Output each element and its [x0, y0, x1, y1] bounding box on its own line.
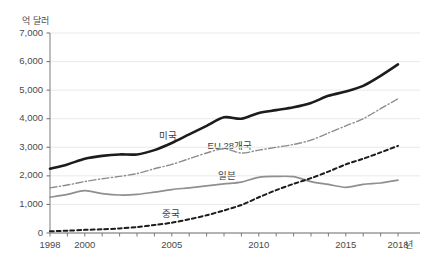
series-line	[50, 146, 398, 231]
line-chart: 억 달러 년 01,0002,0003,0004,0005,0006,0007,…	[0, 0, 429, 261]
series-line	[50, 99, 398, 188]
axis-tick-marks	[47, 33, 399, 237]
axis-lines	[50, 33, 420, 233]
plot-area	[0, 0, 429, 261]
series-lines	[50, 64, 398, 231]
series-line	[50, 64, 398, 168]
